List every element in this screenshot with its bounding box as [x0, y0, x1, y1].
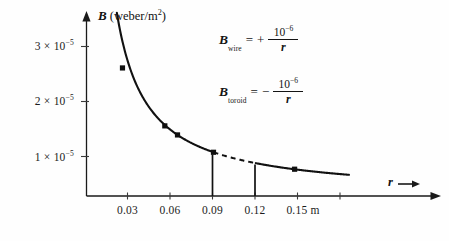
- data-point-marker: [120, 65, 125, 70]
- eq-toroid-denominator: r: [283, 92, 294, 106]
- eq-wire-fraction: 10−6 r: [268, 26, 298, 54]
- data-point-marker: [211, 150, 216, 155]
- annotation-equation-wire: Bwire = + 10−6 r: [219, 26, 298, 54]
- x-tick-label-0.12: 0.12: [245, 204, 266, 216]
- eq-toroid-sign: −: [262, 84, 269, 100]
- y-tick-label-3e-5: 3 × 10−5: [0, 40, 74, 52]
- y-tick-label-2e-5: 2 × 10−5: [0, 95, 74, 107]
- curve-segment-solid-left: [117, 13, 214, 152]
- eq-toroid-subscript: toroid: [228, 96, 247, 105]
- eq-wire-equals: =: [246, 32, 253, 48]
- eq-toroid-fraction: 10−6 r: [273, 78, 303, 106]
- y-tick-label-1e-5: 1 × 10−5: [0, 151, 74, 163]
- eq-wire-numerator: 10−6: [271, 26, 297, 39]
- y-axis-title-units-close: ): [162, 9, 166, 23]
- x-tick-label-0.15: 0.15 m: [286, 204, 319, 216]
- eq-wire-denominator: r: [278, 40, 289, 54]
- eq-toroid-numerator: 10−6: [275, 78, 301, 91]
- x-axis-arrow-icon: [431, 192, 442, 200]
- eq-wire-sign: +: [257, 32, 264, 48]
- x-tick-label-0.03: 0.03: [117, 204, 138, 216]
- eq-wire-subscript: wire: [228, 44, 242, 53]
- annotation-equation-toroid: Btoroid = − 10−6 r: [219, 78, 303, 106]
- physics-figure: B (weber/m2) 3 × 10−5 2 × 10−5 1 × 10−5 …: [0, 0, 449, 241]
- eq-wire-variable: Bwire: [219, 32, 242, 48]
- data-point-marker: [175, 132, 180, 137]
- y-axis-title: B (weber/m2): [98, 8, 166, 24]
- x-axis-symbol: r: [388, 175, 393, 190]
- curve-segment-solid-right: [256, 163, 349, 175]
- eq-toroid-equals: =: [251, 84, 258, 100]
- x-axis-symbol-arrow-icon: [396, 178, 422, 190]
- eq-toroid-numerator-exponent: −6: [290, 76, 298, 85]
- y-axis-arrow-icon: [82, 11, 90, 22]
- data-point-marker: [292, 167, 297, 172]
- eq-toroid-variable: Btoroid: [219, 84, 247, 100]
- y-axis-title-symbol: B: [98, 8, 107, 23]
- x-tick-label-0.06: 0.06: [160, 204, 181, 216]
- eq-wire-numerator-exponent: −6: [285, 24, 293, 33]
- data-point-marker: [162, 123, 167, 128]
- curve-segment-dashed: [213, 152, 255, 163]
- y-axis-title-units: (weber/m: [110, 9, 158, 23]
- x-tick-label-0.09: 0.09: [202, 204, 223, 216]
